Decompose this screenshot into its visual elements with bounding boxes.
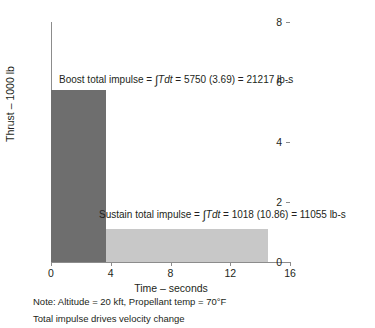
y-axis-title: Thrust – 1000 lb	[4, 66, 16, 142]
annotation-boost-integrand: Tdt	[158, 74, 172, 85]
x-axis-title: Time – seconds	[51, 282, 291, 294]
x-tick-mark	[171, 262, 172, 266]
bar-sustain	[106, 229, 268, 262]
x-tick-mark	[230, 262, 231, 266]
annotation-boost-suffix: = 5750 (3.69) = 21217 lb-s	[173, 74, 294, 85]
annotation-sustain-total-impulse: Sustain total impulse = ∫Tdt = 1018 (10.…	[99, 209, 346, 222]
annotation-sustain-prefix: Sustain total impulse =	[99, 209, 203, 220]
x-tick-label: 12	[224, 268, 236, 279]
annotation-boost-total-impulse: Boost total impulse = ∫Tdt = 5750 (3.69)…	[59, 74, 293, 87]
x-tick-label: 4	[108, 268, 114, 279]
annotation-boost-prefix: Boost total impulse =	[59, 74, 155, 85]
bars-layer	[51, 22, 290, 262]
x-tick-label: 0	[48, 268, 54, 279]
annotation-sustain-integrand: Tdt	[206, 209, 220, 220]
footnote-summary: Total impulse drives velocity change	[33, 314, 185, 324]
thrust-vs-time-chart: 02468 0481216 Thrust – 1000 lb Time – se…	[0, 0, 375, 328]
x-tick-mark	[290, 262, 291, 266]
x-tick-mark	[111, 262, 112, 266]
x-tick-label: 8	[168, 268, 174, 279]
footnote-conditions: Note: Altitude = 20 kft, Propellant temp…	[33, 297, 226, 307]
bar-boost	[51, 90, 106, 263]
x-tick-label: 16	[284, 268, 296, 279]
annotation-sustain-suffix: = 1018 (10.86) = 11055 lb-s	[220, 209, 345, 220]
x-tick-mark	[51, 262, 52, 266]
